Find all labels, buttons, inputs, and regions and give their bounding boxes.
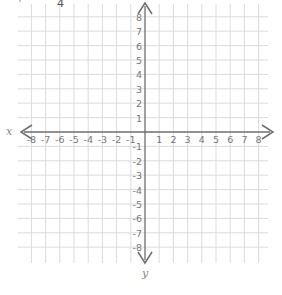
y-tick-label: -1 [133, 141, 142, 152]
x-tick-labels: -8-7-6-5-4-3-2-112345678 [27, 134, 262, 145]
y-tick-label: 5 [136, 55, 142, 66]
x-tick-label: 1 [156, 134, 162, 145]
x-axis-label: x [6, 125, 13, 138]
y-tick-label: 6 [136, 41, 142, 52]
x-tick-label: 8 [256, 134, 262, 145]
y-tick-label: 8 [136, 12, 142, 23]
y-tick-label: 3 [136, 84, 142, 95]
y-tick-label: -3 [133, 170, 142, 181]
corner-dot [19, 0, 21, 2]
y-tick-label: -4 [133, 185, 142, 196]
y-tick-label: -8 [133, 242, 142, 253]
x-tick-label: 6 [227, 134, 233, 145]
y-tick-label: -6 [133, 213, 142, 224]
y-tick-label: -7 [133, 228, 142, 239]
x-tick-label: -8 [27, 134, 36, 145]
y-axis-label: y [141, 267, 149, 280]
coordinate-plane: -8-7-6-5-4-3-2-112345678 87654321-1-2-3-… [0, 0, 282, 295]
x-tick-label: -3 [98, 134, 107, 145]
x-tick-label: 7 [241, 134, 247, 145]
x-tick-label: 5 [213, 134, 219, 145]
axes [21, 3, 273, 263]
x-tick-label: 4 [199, 134, 205, 145]
y-tick-label: 1 [136, 113, 142, 124]
x-tick-label: -2 [112, 134, 121, 145]
y-tick-label: 4 [136, 69, 142, 80]
x-tick-label: -7 [41, 134, 50, 145]
y-tick-label: 7 [136, 26, 142, 37]
x-tick-label: -6 [55, 134, 64, 145]
y-tick-label: 2 [136, 98, 142, 109]
problem-fragment-label: 4 [57, 0, 64, 10]
y-tick-label: -5 [133, 199, 142, 210]
x-tick-label: -5 [69, 134, 78, 145]
y-tick-label: -2 [133, 156, 142, 167]
x-tick-label: 3 [185, 134, 191, 145]
x-tick-label: 2 [170, 134, 176, 145]
x-tick-label: -4 [83, 134, 92, 145]
